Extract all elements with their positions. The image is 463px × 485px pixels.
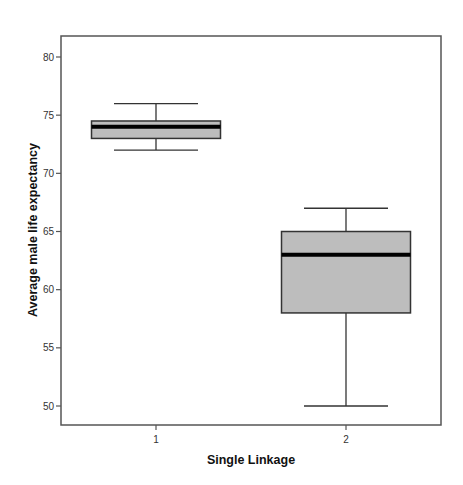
y-tick-label: 60 [43, 284, 55, 295]
iqr-box [92, 121, 221, 138]
y-tick-label: 75 [43, 110, 55, 121]
x-tick-label: 1 [153, 434, 159, 445]
x-axis-title: Single Linkage [207, 453, 295, 467]
y-tick-label: 55 [43, 342, 55, 353]
y-tick-label: 70 [43, 168, 55, 179]
boxplot-chart: 50556065707580 12 Average male life expe… [0, 0, 463, 485]
y-tick-label: 50 [43, 401, 55, 412]
y-axis: 50556065707580 [43, 52, 61, 412]
x-tick-label: 2 [343, 434, 349, 445]
plot-frame [61, 36, 441, 425]
x-axis: 12 [153, 425, 349, 445]
y-tick-label: 65 [43, 226, 55, 237]
y-tick-label: 80 [43, 52, 55, 63]
iqr-box [282, 232, 411, 313]
y-axis-title: Average male life expectancy [26, 143, 40, 317]
